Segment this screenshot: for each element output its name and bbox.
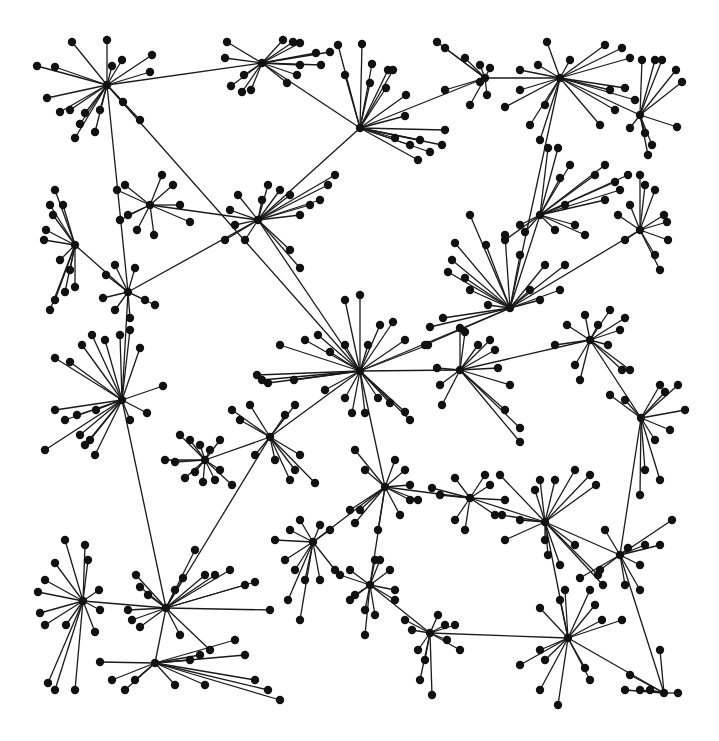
leaf-node xyxy=(351,446,359,454)
leaf-node xyxy=(451,621,459,629)
leaf-node xyxy=(206,446,214,454)
leaf-node xyxy=(221,54,229,62)
hub-node xyxy=(660,689,668,697)
leaf-node xyxy=(433,38,441,46)
leaf-node xyxy=(598,616,606,624)
leaf-node xyxy=(406,141,414,149)
leaf-node xyxy=(76,431,84,439)
leaf-node xyxy=(371,611,379,619)
edge xyxy=(150,205,154,235)
leaf-node xyxy=(396,511,404,519)
leaf-node xyxy=(264,181,272,189)
edge xyxy=(107,55,152,85)
leaf-node xyxy=(316,196,324,204)
leaf-node xyxy=(128,616,136,624)
leaf-node xyxy=(84,556,92,564)
hub-node xyxy=(79,597,87,605)
leaf-node xyxy=(251,451,259,459)
leaf-node xyxy=(674,689,682,697)
leaf-node xyxy=(136,116,144,124)
leaf-node xyxy=(61,288,69,296)
edge xyxy=(640,115,677,127)
leaf-node xyxy=(201,571,209,579)
leaf-node xyxy=(389,66,397,74)
leaf-node xyxy=(81,109,89,117)
leaf-node xyxy=(658,56,666,64)
hub-node xyxy=(541,518,549,526)
leaf-node xyxy=(181,474,189,482)
leaf-node xyxy=(606,391,614,399)
leaf-node xyxy=(301,576,309,584)
edge xyxy=(575,340,590,365)
leaf-node xyxy=(216,466,224,474)
leaf-node xyxy=(636,561,644,569)
leaf-node xyxy=(406,481,414,489)
leaf-node xyxy=(581,664,589,672)
leaf-node xyxy=(221,236,229,244)
edge xyxy=(313,542,320,580)
edge xyxy=(590,340,641,418)
leaf-node xyxy=(581,231,589,239)
leaf-node xyxy=(599,581,607,589)
leaf-node xyxy=(176,631,184,639)
leaf-node xyxy=(536,296,544,304)
edge xyxy=(640,418,641,495)
leaf-node xyxy=(541,101,549,109)
hub-node xyxy=(103,81,111,89)
leaf-node xyxy=(563,321,571,329)
leaf-node xyxy=(103,36,111,44)
leaf-node xyxy=(531,486,539,494)
leaf-node xyxy=(171,586,179,594)
leaf-node xyxy=(91,451,99,459)
leaf-node xyxy=(374,394,382,402)
leaf-node xyxy=(596,566,604,574)
leaf-node xyxy=(251,676,259,684)
edge xyxy=(470,498,495,515)
leaf-node xyxy=(521,228,529,236)
leaf-node xyxy=(356,506,364,514)
leaf-node xyxy=(191,546,199,554)
leaf-node xyxy=(199,478,207,486)
leaf-node xyxy=(441,126,449,134)
leaf-node xyxy=(296,61,304,69)
leaf-node xyxy=(341,394,349,402)
leaf-node xyxy=(216,436,224,444)
leaf-node xyxy=(496,471,504,479)
leaf-node xyxy=(366,79,374,87)
leaf-node xyxy=(311,479,319,487)
leaf-node xyxy=(96,606,104,614)
hub-node xyxy=(381,483,389,491)
leaf-node xyxy=(279,36,287,44)
leaf-node xyxy=(618,44,626,52)
leaf-node xyxy=(516,438,524,446)
leaf-node xyxy=(556,596,564,604)
leaf-node xyxy=(621,84,629,92)
hub-node xyxy=(616,551,624,559)
leaf-node xyxy=(346,506,354,514)
leaf-node xyxy=(361,631,369,639)
leaf-node xyxy=(482,241,490,249)
leaf-node xyxy=(596,121,604,129)
leaf-node xyxy=(631,96,639,104)
edge xyxy=(540,148,548,215)
hub-node xyxy=(266,433,274,441)
leaf-node xyxy=(116,216,124,224)
leaf-node xyxy=(544,144,552,152)
leaf-node xyxy=(171,681,179,689)
leaf-node xyxy=(247,86,255,94)
hub-node xyxy=(481,74,489,82)
edge xyxy=(38,592,83,601)
leaf-node xyxy=(672,66,680,74)
leaf-node xyxy=(136,623,144,631)
leaf-node xyxy=(286,476,294,484)
leaf-node xyxy=(516,66,524,74)
leaf-node xyxy=(326,48,334,56)
leaf-node xyxy=(401,466,409,474)
leaf-node xyxy=(638,56,646,64)
leaf-node xyxy=(554,144,562,152)
leaf-node xyxy=(51,559,59,567)
leaf-node xyxy=(554,701,562,709)
leaf-node xyxy=(606,306,614,314)
leaf-node xyxy=(223,38,231,46)
leaf-node xyxy=(241,581,249,589)
